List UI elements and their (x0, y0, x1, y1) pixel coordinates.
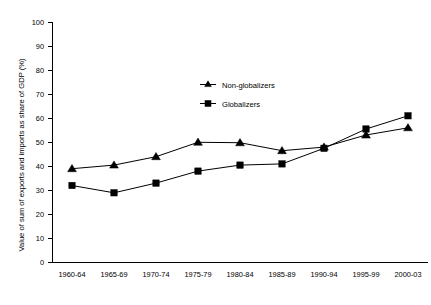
x-tick-label: 1960-64 (58, 270, 85, 279)
y-tick-label: 10 (36, 234, 44, 243)
y-tick-label: 70 (36, 90, 44, 99)
square-marker (153, 180, 159, 186)
square-marker (279, 161, 285, 167)
x-tick-label: 1980-84 (226, 270, 253, 279)
square-marker-icon (205, 101, 211, 107)
chart-background (0, 0, 431, 305)
x-tick-label: 1990-94 (310, 270, 337, 279)
square-marker (363, 126, 369, 132)
square-marker (321, 145, 327, 151)
y-tick-label: 40 (36, 162, 44, 171)
square-marker (69, 182, 75, 188)
square-marker (405, 113, 411, 119)
x-tick-label: 1965-69 (100, 270, 127, 279)
x-tick-label: 1975-79 (184, 270, 211, 279)
y-tick-label: 50 (36, 138, 44, 147)
y-tick-label: 20 (36, 210, 44, 219)
line-chart: Value of sum of exports and imports as s… (0, 0, 431, 305)
x-tick-label: 1970-74 (142, 270, 169, 279)
chart-container: Value of sum of exports and imports as s… (0, 0, 431, 305)
y-tick-label: 30 (36, 186, 44, 195)
square-marker (237, 162, 243, 168)
y-tick-label: 90 (36, 42, 44, 51)
x-tick-label: 1995-99 (352, 270, 379, 279)
y-tick-label: 100 (32, 18, 44, 27)
square-marker (111, 190, 117, 196)
x-axis-tick-labels: 1960-641965-691970-741975-791980-841985-… (58, 270, 421, 279)
legend-label-globalizers: Globalizers (222, 100, 260, 109)
x-tick-label: 2000-03 (394, 270, 421, 279)
legend-label-non-globalizers: Non-globalizers (222, 81, 275, 90)
x-tick-label: 1985-89 (268, 270, 295, 279)
y-axis-title: Value of sum of exports and imports as s… (17, 58, 26, 251)
y-tick-label: 80 (36, 66, 44, 75)
y-tick-label: 60 (36, 114, 44, 123)
y-tick-label: 0 (40, 258, 44, 267)
square-marker (195, 168, 201, 174)
